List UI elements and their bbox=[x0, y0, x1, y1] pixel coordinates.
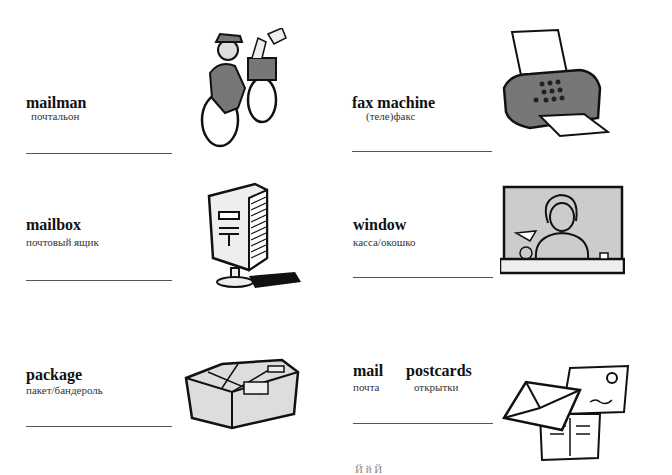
word-russian-postcards: открытки bbox=[414, 381, 458, 393]
word-english-mail: mail bbox=[353, 362, 383, 380]
word-english: window bbox=[353, 216, 406, 234]
answer-line[interactable] bbox=[26, 280, 172, 281]
word-russian: почтовый ящик bbox=[26, 236, 99, 248]
answer-line[interactable] bbox=[353, 423, 493, 424]
answer-line[interactable] bbox=[26, 153, 172, 154]
word-english: mailbox bbox=[26, 216, 81, 234]
word-english-postcards: postcards bbox=[406, 362, 472, 380]
word-russian: (теле)факс bbox=[366, 110, 415, 122]
post-office-window-icon bbox=[500, 185, 625, 275]
mailman-on-bicycle-icon bbox=[190, 28, 290, 148]
answer-line[interactable] bbox=[352, 151, 492, 152]
footer-fragment: Й й Й bbox=[355, 463, 382, 475]
answer-line[interactable] bbox=[353, 277, 493, 278]
package-icon bbox=[182, 352, 302, 432]
answer-line[interactable] bbox=[26, 426, 172, 427]
mailbox-icon bbox=[205, 180, 315, 290]
word-russian-mail: почта bbox=[353, 381, 379, 393]
word-russian: касса/окошко bbox=[353, 236, 415, 248]
mail-and-postcards-icon bbox=[500, 362, 630, 462]
word-russian: пакет/бандероль bbox=[26, 384, 103, 396]
fax-machine-icon bbox=[500, 28, 610, 138]
word-english: package bbox=[26, 366, 82, 384]
word-russian: почтальон bbox=[31, 110, 79, 122]
